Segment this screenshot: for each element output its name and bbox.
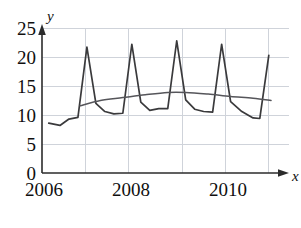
y-tick-label-25: 25 (17, 18, 36, 39)
y-tick-label-10: 10 (17, 105, 36, 126)
y-axis-arrowhead (38, 24, 46, 35)
x-tick-label-2006: 2006 (25, 179, 63, 200)
series-line-trend (80, 92, 271, 106)
gridlines-vertical (85, 28, 268, 173)
chart-figure: 25 20 15 10 5 0 2006 2008 2010 y x (0, 0, 301, 228)
x-tick-label-2010: 2010 (209, 179, 247, 200)
x-axis-arrowhead (278, 169, 289, 177)
y-tick-label-15: 15 (17, 76, 36, 97)
y-tick-labels: 25 20 15 10 5 0 (17, 18, 36, 184)
x-tick-labels: 2006 2008 2010 (25, 179, 247, 200)
series-line-observed (49, 41, 269, 126)
y-tick-label-20: 20 (17, 47, 36, 68)
x-axis (42, 169, 289, 177)
x-tick-label-2008: 2008 (112, 179, 150, 200)
y-axis-title: y (45, 8, 54, 24)
line-chart-svg: 25 20 15 10 5 0 2006 2008 2010 y x (0, 0, 301, 228)
gridlines-horizontal (42, 28, 289, 144)
y-tick-label-5: 5 (27, 134, 37, 155)
y-axis (38, 24, 46, 173)
x-axis-title: x (291, 168, 299, 184)
